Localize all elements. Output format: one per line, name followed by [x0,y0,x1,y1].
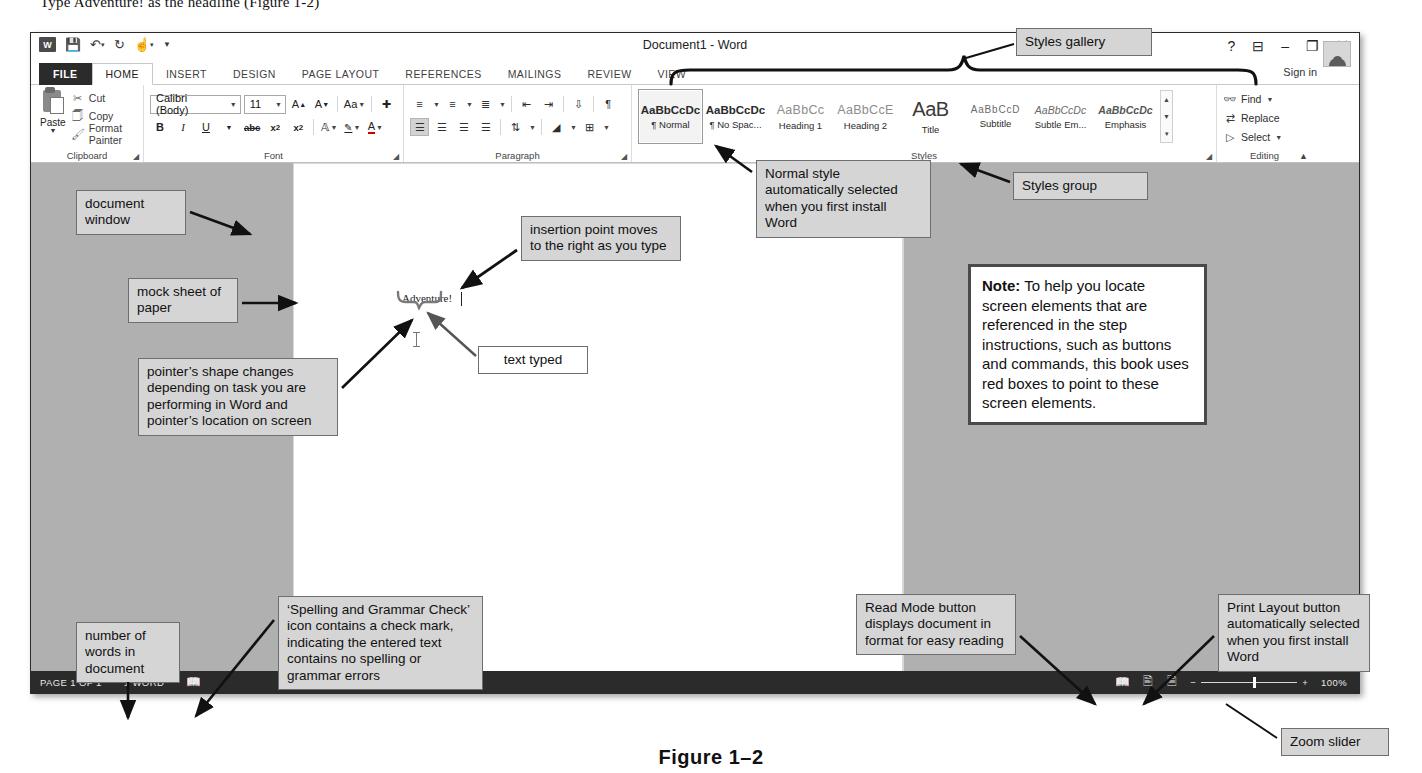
paste-icon [40,90,66,116]
help-icon[interactable]: ? [1227,38,1235,54]
text-highlight-icon[interactable]: ✎▼ [342,118,362,137]
scroll-down-icon[interactable]: ▼ [1161,108,1172,125]
line-spacing-icon[interactable]: ⇅ [506,118,525,136]
chevron-down-icon[interactable]: ▼ [49,128,56,134]
callout-word-count: number of words in document [76,622,180,683]
cut-button[interactable]: ✂ Cut [71,90,137,106]
paragraph-dialog-launcher[interactable]: ◢ [621,152,627,161]
group-label-font: Font [144,150,403,161]
tab-view[interactable]: VIEW [645,63,700,85]
tab-references[interactable]: REFERENCES [392,63,494,85]
zoom-track[interactable] [1201,682,1297,683]
sign-in-link[interactable]: Sign in [1283,66,1317,78]
align-center-button[interactable]: ☰ [432,118,451,136]
zoom-level[interactable]: 100% [1321,677,1347,688]
format-painter-button[interactable]: 🖌 Format Painter [71,126,137,142]
web-layout-icon[interactable]: 🗎 [1167,672,1177,693]
font-name-combo[interactable]: Calibri (Body) ▼ [150,95,241,114]
styles-gallery-scrollbar[interactable]: ▲ ▼ ▾ [1160,90,1173,143]
tab-page-layout[interactable]: PAGE LAYOUT [289,63,393,85]
clipboard-dialog-launcher[interactable]: ◢ [133,152,139,161]
ribbon-display-options-icon[interactable]: ⊟ [1252,38,1264,54]
group-label-editing: Editing [1217,150,1312,161]
more-styles-icon[interactable]: ▾ [1161,125,1172,142]
ribbon-tab-strip[interactable]: FILE HOME INSERT DESIGN PAGE LAYOUT REFE… [31,63,1359,85]
align-left-button[interactable]: ☰ [410,118,429,136]
change-case-icon[interactable]: Aa▼ [343,95,366,114]
bullets-icon[interactable]: ≡ [410,95,429,113]
zoom-in-button[interactable]: + [1302,677,1308,688]
text-effects-icon[interactable]: 𝔸▼ [319,118,339,137]
show-formatting-marks-icon[interactable]: ¶ [599,95,618,113]
style-name: Title [922,124,940,135]
grow-font-icon[interactable]: A▲ [289,95,309,114]
style-preview: AaBbCcD [971,104,1021,115]
zoom-thumb[interactable] [1253,677,1256,688]
ribbon: Paste ▼ ✂ Cut 🗍 Copy 🖌 [31,85,1359,163]
clear-formatting-icon[interactable]: ✚ [377,95,397,114]
chevron-down-icon[interactable]: ▼ [224,101,237,108]
collapse-ribbon-icon[interactable]: ▲ [1299,151,1308,161]
style-normal[interactable]: AaBbCcDc ¶ Normal [638,89,703,144]
select-button[interactable]: ▷ Select ▼ [1223,129,1306,145]
callout-read-mode: Read Mode button displays document in fo… [856,594,1016,655]
tab-review[interactable]: REVIEW [574,63,644,85]
zoom-slider[interactable]: − + [1190,677,1308,688]
style-title[interactable]: AaB Title [898,89,963,144]
decrease-indent-icon[interactable]: ⇤ [517,95,536,113]
tab-mailings[interactable]: MAILINGS [495,63,575,85]
find-label: Find [1241,93,1261,105]
increase-indent-icon[interactable]: ⇥ [539,95,558,113]
sort-icon[interactable]: ⇩ [569,95,588,113]
shading-icon[interactable]: ◢ [547,118,566,136]
style-emphasis[interactable]: AaBbCcDc Emphasis [1093,89,1158,144]
style-name: Subtitle [980,118,1012,129]
justify-button[interactable]: ☰ [476,118,495,136]
minimize-icon[interactable]: – [1281,38,1289,54]
read-mode-icon[interactable]: 📖 [1115,675,1130,689]
scroll-up-icon[interactable]: ▲ [1161,91,1172,108]
mouse-pointer-ibeam [416,332,417,347]
print-layout-icon[interactable]: 🖹 [1143,672,1153,693]
tab-file[interactable]: FILE [39,63,92,85]
chevron-down-icon[interactable]: ▼ [269,101,282,108]
style-heading-2[interactable]: AaBbCcE Heading 2 [833,89,898,144]
italic-button[interactable]: I [173,118,193,137]
styles-gallery[interactable]: AaBbCcDc ¶ Normal AaBbCcDc ¶ No Spac... … [638,88,1210,144]
style-no-spacing[interactable]: AaBbCcDc ¶ No Spac... [703,89,768,144]
chevron-down-icon[interactable]: ▼ [1275,134,1282,141]
restore-icon[interactable]: ❐ [1306,38,1319,54]
strikethrough-button[interactable]: abc [242,118,262,137]
underline-dropdown-icon[interactable]: ▼ [219,118,239,137]
note-label: Note: [982,277,1020,294]
style-heading-1[interactable]: AaBbCc Heading 1 [768,89,833,144]
font-color-icon[interactable]: A▼ [365,118,385,137]
numbering-icon[interactable]: ≡ [443,95,462,113]
avatar[interactable] [1323,41,1351,67]
underline-button[interactable]: U [196,118,216,137]
style-subtle-emphasis[interactable]: AaBbCcDc Subtle Em... [1028,89,1093,144]
tab-home[interactable]: HOME [92,63,153,85]
superscript-button[interactable]: x2 [288,118,308,137]
chevron-down-icon[interactable]: ▼ [1266,96,1273,103]
style-name: ¶ No Spac... [709,119,761,130]
styles-dialog-launcher[interactable]: ◢ [1206,152,1212,161]
replace-button[interactable]: ⇄ Replace [1223,110,1306,126]
style-subtitle[interactable]: AaBbCcD Subtitle [963,89,1028,144]
align-right-button[interactable]: ☰ [454,118,473,136]
zoom-out-button[interactable]: − [1190,677,1196,688]
find-button[interactable]: 👓 Find ▼ [1223,91,1306,107]
status-bar[interactable]: PAGE 1 OF 1 1 WORD 📖 📖 🖹 🗎 − + 100% [31,671,1359,693]
callout-document-window: document window [76,190,186,235]
font-size-combo[interactable]: 11 ▼ [244,95,286,114]
paste-button[interactable]: Paste ▼ [37,88,69,144]
font-dialog-launcher[interactable]: ◢ [393,152,399,161]
tab-insert[interactable]: INSERT [153,63,220,85]
subscript-button[interactable]: x2 [265,118,285,137]
multilevel-list-icon[interactable]: ≣ [476,95,495,113]
shrink-font-icon[interactable]: A▼ [312,95,332,114]
borders-icon[interactable]: ⊞ [580,118,599,136]
tab-design[interactable]: DESIGN [220,63,289,85]
spelling-and-grammar-check-icon[interactable]: 📖 [186,675,201,689]
bold-button[interactable]: B [150,118,170,137]
